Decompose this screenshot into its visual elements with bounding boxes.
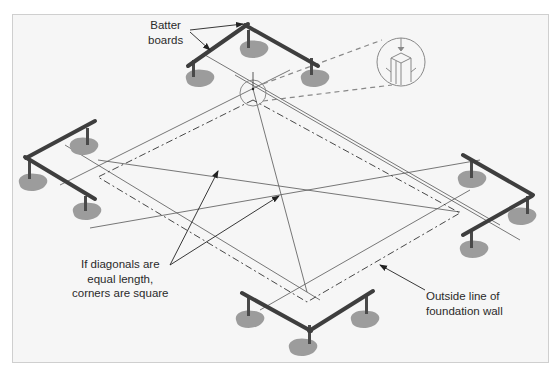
batter-board-bottom <box>236 291 380 356</box>
batter-board-top <box>186 24 330 87</box>
batter-board-right <box>458 155 537 258</box>
label-diagonals-equal: If diagonals are equal length, corners a… <box>72 257 169 301</box>
plumb-bob-detail-callout <box>377 38 425 86</box>
label-batter-boards: Batter boards <box>148 18 183 47</box>
label-foundation-wall: Outside line of foundation wall <box>426 289 503 318</box>
callout-connectors <box>263 40 392 101</box>
